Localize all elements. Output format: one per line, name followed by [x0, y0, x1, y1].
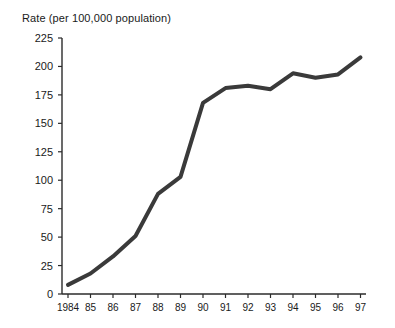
x-axis-tick-label: 90 [197, 302, 209, 313]
x-axis-tick-label: 92 [242, 302, 254, 313]
y-axis-tick-label: 75 [41, 203, 53, 215]
x-axis-tick-label: 1984 [57, 302, 80, 313]
y-axis-tick-label: 50 [41, 231, 53, 243]
y-axis-tick-label: 0 [47, 288, 53, 300]
x-axis-tick-label: 85 [85, 302, 97, 313]
x-axis-tick-label: 93 [265, 302, 277, 313]
y-axis-tick-label: 200 [35, 60, 53, 72]
y-axis-tick-label: 25 [41, 260, 53, 272]
x-axis-tick-label: 91 [220, 302, 232, 313]
y-axis-tick-label: 150 [35, 117, 53, 129]
y-axis: 0255075100125150175200225 [35, 32, 62, 300]
y-axis-tick-label: 225 [35, 32, 53, 44]
y-axis-tick-label: 175 [35, 89, 53, 101]
x-axis-tick-label: 89 [175, 302, 187, 313]
x-axis-tick-label: 86 [107, 302, 119, 313]
x-axis-tick-label: 97 [355, 302, 367, 313]
line-chart-plot: 0255075100125150175200225 19848586878889… [0, 0, 395, 328]
x-axis-tick-label: 88 [152, 302, 164, 313]
x-axis-tick-label: 96 [332, 302, 344, 313]
x-axis-tick-label: 94 [287, 302, 299, 313]
x-axis-tick-label: 95 [310, 302, 322, 313]
y-axis-tick-label: 125 [35, 146, 53, 158]
y-axis-tick-label: 100 [35, 174, 53, 186]
x-axis: 198485868788899091929394959697 [57, 294, 367, 313]
x-axis-tick-label: 87 [130, 302, 142, 313]
chart-page: Rate (per 100,000 population) 0255075100… [0, 0, 395, 328]
data-series-line [68, 57, 361, 285]
